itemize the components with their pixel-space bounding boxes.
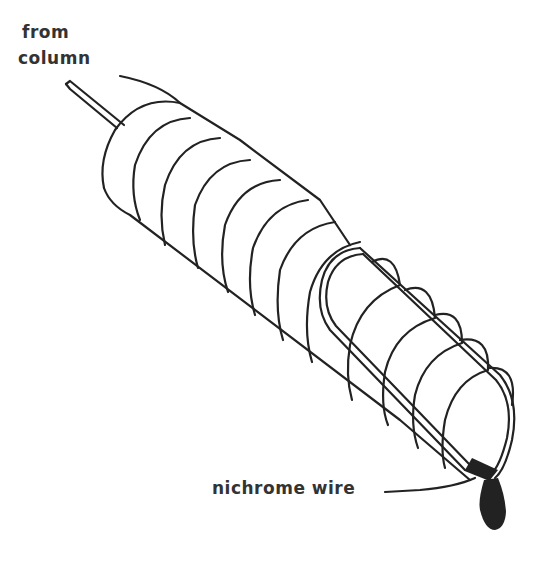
wire-tip xyxy=(465,458,506,530)
label-leader xyxy=(385,478,475,492)
lead-wire xyxy=(120,76,180,103)
inlet-tube xyxy=(66,81,124,128)
coil-diagram xyxy=(0,0,543,568)
